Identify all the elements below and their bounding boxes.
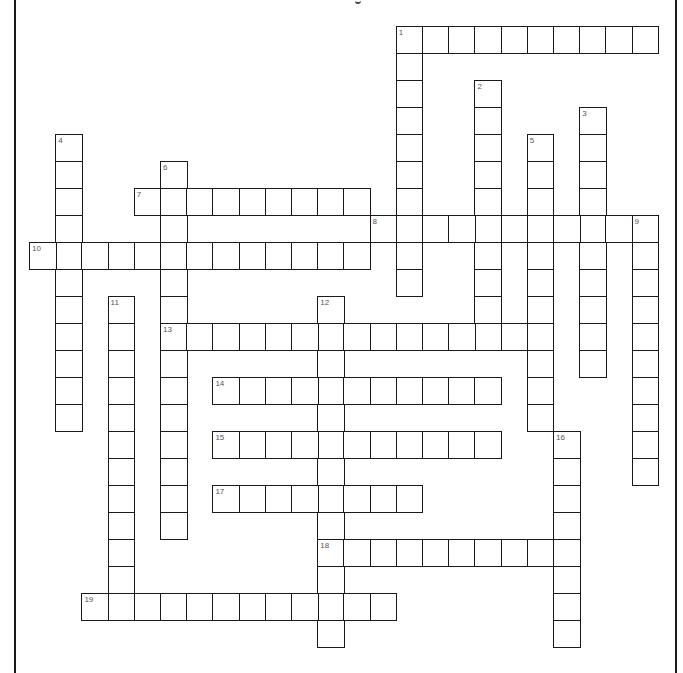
grid-cell-r19-c18[interactable] [501, 539, 529, 567]
grid-cell-r15-c13[interactable] [370, 431, 398, 459]
grid-cell-r21-c2[interactable]: 19 [81, 593, 109, 621]
grid-cell-r0-c14[interactable]: 1 [396, 26, 424, 54]
grid-cell-r20-c20[interactable] [553, 566, 581, 594]
grid-cell-r4-c19[interactable]: 5 [527, 134, 555, 162]
grid-cell-r8-c1[interactable] [55, 242, 83, 270]
grid-cell-r6-c7[interactable] [212, 188, 240, 216]
grid-cell-r8-c23[interactable] [632, 242, 660, 270]
grid-cell-r21-c8[interactable] [239, 593, 267, 621]
grid-cell-r15-c10[interactable] [291, 431, 319, 459]
grid-cell-r7-c22[interactable] [605, 215, 633, 243]
grid-cell-r1-c14[interactable] [396, 53, 424, 81]
grid-cell-r4-c17[interactable] [474, 134, 502, 162]
grid-cell-r7-c21[interactable] [579, 215, 607, 243]
grid-cell-r6-c9[interactable] [265, 188, 293, 216]
grid-cell-r19-c12[interactable] [343, 539, 371, 567]
grid-cell-r11-c12[interactable] [343, 323, 371, 351]
grid-cell-r7-c18[interactable] [501, 215, 529, 243]
grid-cell-r15-c11[interactable] [317, 431, 345, 459]
grid-cell-r17-c7[interactable]: 17 [212, 485, 240, 513]
grid-cell-r21-c9[interactable] [265, 593, 293, 621]
grid-cell-r9-c17[interactable] [474, 269, 502, 297]
grid-cell-r11-c23[interactable] [632, 323, 660, 351]
grid-cell-r19-c19[interactable] [527, 539, 555, 567]
grid-cell-r10-c19[interactable] [527, 296, 555, 324]
grid-cell-r10-c5[interactable] [160, 296, 188, 324]
grid-cell-r13-c15[interactable] [422, 377, 450, 405]
grid-cell-r11-c11[interactable] [317, 323, 345, 351]
grid-cell-r13-c8[interactable] [239, 377, 267, 405]
grid-cell-r9-c5[interactable] [160, 269, 188, 297]
grid-cell-r0-c18[interactable] [501, 26, 529, 54]
grid-cell-r8-c6[interactable] [186, 242, 214, 270]
grid-cell-r13-c16[interactable] [448, 377, 476, 405]
grid-cell-r4-c1[interactable]: 4 [55, 134, 83, 162]
grid-cell-r21-c5[interactable] [160, 593, 188, 621]
grid-cell-r5-c19[interactable] [527, 161, 555, 189]
grid-cell-r13-c10[interactable] [291, 377, 319, 405]
grid-cell-r12-c3[interactable] [108, 350, 136, 378]
grid-cell-r13-c14[interactable] [396, 377, 424, 405]
grid-cell-r13-c7[interactable]: 14 [212, 377, 240, 405]
grid-cell-r12-c5[interactable] [160, 350, 188, 378]
grid-cell-r13-c1[interactable] [55, 377, 83, 405]
grid-cell-r10-c1[interactable] [55, 296, 83, 324]
grid-cell-r0-c23[interactable] [632, 26, 660, 54]
grid-cell-r9-c19[interactable] [527, 269, 555, 297]
grid-cell-r8-c17[interactable] [474, 242, 502, 270]
grid-cell-r8-c10[interactable] [291, 242, 319, 270]
grid-cell-r9-c23[interactable] [632, 269, 660, 297]
grid-cell-r6-c1[interactable] [55, 188, 83, 216]
grid-cell-r5-c17[interactable] [474, 161, 502, 189]
grid-cell-r16-c11[interactable] [317, 458, 345, 486]
grid-cell-r20-c11[interactable] [317, 566, 345, 594]
grid-cell-r10-c11[interactable]: 12 [317, 296, 345, 324]
grid-cell-r0-c22[interactable] [605, 26, 633, 54]
grid-cell-r7-c23[interactable]: 9 [632, 215, 660, 243]
grid-cell-r21-c3[interactable] [108, 593, 136, 621]
grid-cell-r6-c8[interactable] [239, 188, 267, 216]
grid-cell-r13-c5[interactable] [160, 377, 188, 405]
grid-cell-r6-c12[interactable] [343, 188, 371, 216]
grid-cell-r18-c3[interactable] [108, 512, 136, 540]
grid-cell-r21-c20[interactable] [553, 593, 581, 621]
grid-cell-r11-c21[interactable] [579, 323, 607, 351]
grid-cell-r7-c15[interactable] [422, 215, 450, 243]
grid-cell-r17-c14[interactable] [396, 485, 424, 513]
grid-cell-r11-c17[interactable] [474, 323, 502, 351]
grid-cell-r0-c17[interactable] [474, 26, 502, 54]
grid-cell-r13-c19[interactable] [527, 377, 555, 405]
grid-cell-r3-c14[interactable] [396, 107, 424, 135]
grid-cell-r8-c12[interactable] [343, 242, 371, 270]
grid-cell-r15-c16[interactable] [448, 431, 476, 459]
grid-cell-r15-c8[interactable] [239, 431, 267, 459]
grid-cell-r13-c3[interactable] [108, 377, 136, 405]
grid-cell-r8-c11[interactable] [317, 242, 345, 270]
grid-cell-r3-c17[interactable] [474, 107, 502, 135]
grid-cell-r17-c5[interactable] [160, 485, 188, 513]
grid-cell-r19-c20[interactable] [553, 539, 581, 567]
grid-cell-r15-c7[interactable]: 15 [212, 431, 240, 459]
grid-cell-r19-c13[interactable] [370, 539, 398, 567]
grid-cell-r15-c14[interactable] [396, 431, 424, 459]
grid-cell-r6-c17[interactable] [474, 188, 502, 216]
grid-cell-r12-c23[interactable] [632, 350, 660, 378]
grid-cell-r3-c21[interactable]: 3 [579, 107, 607, 135]
grid-cell-r6-c14[interactable] [396, 188, 424, 216]
grid-cell-r0-c19[interactable] [527, 26, 555, 54]
grid-cell-r14-c1[interactable] [55, 404, 83, 432]
grid-cell-r5-c21[interactable] [579, 161, 607, 189]
grid-cell-r8-c3[interactable] [108, 242, 136, 270]
grid-cell-r0-c20[interactable] [553, 26, 581, 54]
grid-cell-r7-c14[interactable] [396, 215, 424, 243]
grid-cell-r8-c19[interactable] [527, 242, 555, 270]
grid-cell-r7-c13[interactable]: 8 [370, 215, 398, 243]
grid-cell-r16-c20[interactable] [553, 458, 581, 486]
grid-cell-r11-c7[interactable] [212, 323, 240, 351]
grid-cell-r17-c3[interactable] [108, 485, 136, 513]
grid-cell-r21-c12[interactable] [343, 593, 371, 621]
grid-cell-r16-c5[interactable] [160, 458, 188, 486]
grid-cell-r0-c15[interactable] [422, 26, 450, 54]
grid-cell-r21-c10[interactable] [291, 593, 319, 621]
grid-cell-r15-c20[interactable]: 16 [553, 431, 581, 459]
